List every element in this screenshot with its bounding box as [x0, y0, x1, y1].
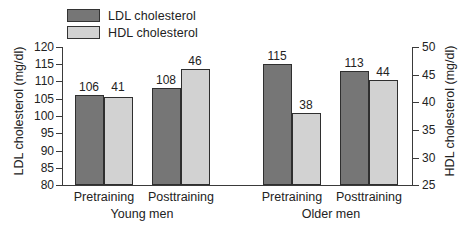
legend-swatch-hdl — [67, 26, 100, 39]
y-axis-left-tick — [56, 133, 62, 134]
bar-value-label: 115 — [257, 50, 297, 62]
x-axis-category-label: Posttraining — [139, 190, 223, 204]
y-axis-right-tick — [413, 185, 419, 186]
y-axis-left-tick — [56, 151, 62, 152]
y-axis-left-ticklabel: 95 — [22, 127, 54, 139]
y-axis-left-tick — [56, 64, 62, 65]
y-axis-right-tick — [413, 102, 419, 103]
y-axis-left-tick — [56, 116, 62, 117]
y-axis-left-ticklabel: 100 — [22, 110, 54, 122]
y-axis-left-tick — [56, 99, 62, 100]
y-axis-left-tick — [56, 185, 62, 186]
x-axis-category-label: Posttraining — [327, 190, 411, 204]
y-axis-left-ticklabel: 110 — [22, 75, 54, 87]
bar-value-label: 44 — [363, 66, 403, 78]
bar-ldl-young-pretraining — [75, 95, 104, 185]
y-axis-left-tick — [56, 168, 62, 169]
x-axis-group-label: Young men — [102, 207, 182, 221]
bar-ldl-older-posttraining — [340, 71, 369, 185]
y-axis-right-tick — [413, 158, 419, 159]
x-axis-group-label: Older men — [291, 207, 371, 221]
y-axis-left-ticklabel: 120 — [22, 41, 54, 53]
x-axis-line — [62, 185, 413, 186]
legend-item-ldl: LDL cholesterol — [67, 8, 267, 23]
x-axis-category-label: Pretraining — [64, 190, 144, 204]
bar-value-label: 46 — [175, 55, 215, 67]
bar-value-label: 41 — [98, 81, 138, 93]
y-axis-left-tick — [56, 81, 62, 82]
y-axis-right-line — [412, 47, 413, 186]
y-axis-right-tick — [413, 47, 419, 48]
y-axis-left-ticklabel: 85 — [22, 162, 54, 174]
y-axis-left-title: LDL cholesterol (mg/dl) — [12, 36, 26, 186]
legend-label-ldl: LDL cholesterol — [108, 9, 196, 23]
bar-ldl-older-pretraining — [263, 64, 292, 185]
y-axis-left-tick — [56, 47, 62, 48]
bar-hdl-young-pretraining — [104, 97, 133, 185]
y-axis-left-ticklabel: 105 — [22, 93, 54, 105]
y-axis-left-ticklabel: 90 — [22, 145, 54, 157]
bar-hdl-older-pretraining — [292, 113, 321, 185]
bar-ldl-young-posttraining — [152, 88, 181, 185]
y-axis-right-tick — [413, 130, 419, 131]
y-axis-left-line — [62, 47, 63, 186]
bar-hdl-older-posttraining — [369, 80, 398, 185]
bar-value-label: 38 — [286, 99, 326, 111]
y-axis-left-ticklabel: 80 — [22, 179, 54, 191]
bar-chart: LDL cholesterol HDL cholesterol 120 115 … — [0, 0, 475, 231]
legend-swatch-ldl — [67, 9, 100, 22]
y-axis-right-tick — [413, 75, 419, 76]
legend-item-hdl: HDL cholesterol — [67, 25, 267, 40]
legend-label-hdl: HDL cholesterol — [108, 26, 198, 40]
y-axis-right-title: HDL cholesterol (mg/dl) — [443, 36, 457, 186]
bar-hdl-young-posttraining — [181, 69, 210, 185]
x-axis-category-label: Pretraining — [252, 190, 332, 204]
y-axis-left-ticklabel: 115 — [22, 58, 54, 70]
bar-value-label: 108 — [146, 74, 186, 86]
chart-legend: LDL cholesterol HDL cholesterol — [67, 8, 267, 42]
